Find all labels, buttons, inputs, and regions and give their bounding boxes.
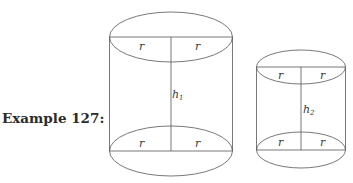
- small-top-r-right: r: [320, 69, 326, 82]
- large-top-r-left: r: [139, 40, 145, 53]
- small-top-r-left: r: [278, 69, 284, 82]
- cylinder-large: [110, 12, 233, 176]
- large-height-label: h1: [172, 88, 184, 102]
- small-bottom-r-right: r: [320, 136, 326, 149]
- small-height-sub: 2: [309, 109, 315, 117]
- large-bottom-r-left: r: [139, 137, 145, 150]
- cylinders-diagram: r r h1 r r r r h2 r r: [0, 0, 353, 183]
- large-top-r-right: r: [195, 40, 201, 53]
- small-height-label: h2: [303, 103, 315, 117]
- cylinder-small: [257, 50, 346, 168]
- large-bottom-r-right: r: [195, 137, 201, 150]
- cylinder-large-labels: r r h1 r r: [139, 40, 201, 150]
- large-height-h: h: [172, 88, 179, 101]
- small-bottom-r-left: r: [278, 136, 284, 149]
- large-height-sub: 1: [179, 94, 183, 102]
- cylinder-small-labels: r r h2 r r: [278, 69, 326, 149]
- small-height-h: h: [303, 103, 310, 116]
